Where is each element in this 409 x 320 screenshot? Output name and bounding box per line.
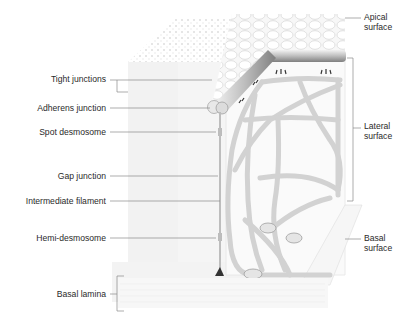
label-apical-line2: surface (364, 22, 392, 32)
label-hemi-desmosome: Hemi-desmosome (36, 233, 106, 243)
label-basal-line2: surface (364, 243, 392, 253)
label-spot-desmosome: Spot desmosome (39, 127, 106, 137)
label-basal-line1: Basal (364, 233, 392, 243)
label-lateral-line2: surface (364, 131, 392, 141)
basal-lamina-block (118, 278, 328, 308)
label-adherens-junction: Adherens junction (37, 103, 106, 113)
label-apical-line1: Apical (364, 12, 392, 22)
label-tight-junctions: Tight junctions (51, 74, 106, 84)
cell-illustration (0, 0, 409, 320)
label-apical-surface: Apical surface (364, 12, 392, 32)
label-lateral-surface: Lateral surface (364, 121, 392, 141)
label-basal-surface: Basal surface (364, 233, 392, 253)
label-lateral-line1: Lateral (364, 121, 392, 131)
label-basal-lamina: Basal lamina (57, 289, 106, 299)
label-intermediate-filament: Intermediate filament (26, 196, 106, 206)
label-gap-junction: Gap junction (58, 171, 106, 181)
epithelial-cell-diagram: Tight junctions Adherens junction Spot d… (0, 0, 409, 320)
